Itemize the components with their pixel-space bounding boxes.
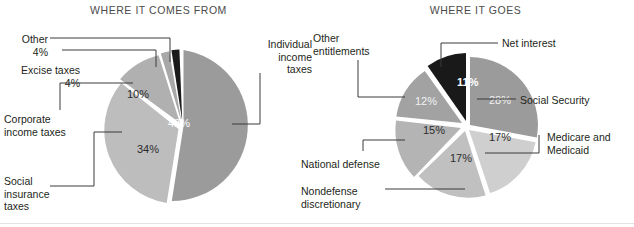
leader-line-social-insurance-taxes: [50, 132, 122, 186]
leader-line-individual-income-taxes: [232, 73, 260, 124]
leader-line-net-interest: [441, 43, 498, 67]
leader-line-national-defense: [363, 140, 405, 151]
leader-line-excise-taxes: [62, 50, 156, 67]
callout-leader-lines-right: [317, 0, 634, 227]
bottom-divider: [0, 223, 634, 224]
leader-line-medicare-medicaid: [485, 135, 539, 153]
chart-panel-comes-from: WHERE IT COMES FROM 48% 34% 10% Other 4%…: [0, 0, 317, 227]
callout-leader-lines-left: [0, 0, 317, 227]
chart-panel-where-it-goes: WHERE IT GOES 28% 17% 17% 15% 12% 11% Ot…: [317, 0, 634, 227]
leader-line-corporate-income-taxes: [60, 83, 133, 110]
leader-line-other-entitlements: [358, 60, 405, 97]
